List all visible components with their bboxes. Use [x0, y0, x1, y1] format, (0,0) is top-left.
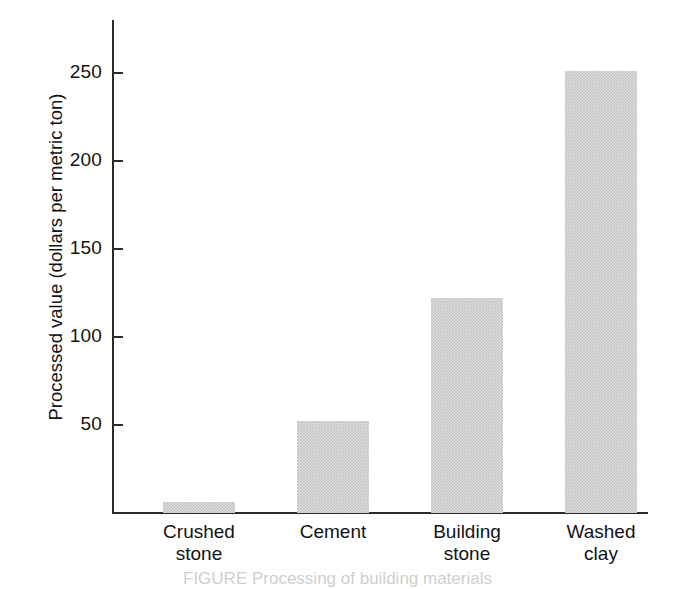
y-tick-label-250: 250 — [42, 61, 102, 83]
figure-caption: FIGURE Processing of building materials — [0, 569, 675, 589]
x-label-line1: Cement — [300, 521, 367, 542]
y-tick-label-200: 200 — [42, 149, 102, 171]
x-label-line2: clay — [541, 543, 661, 565]
bar-cement — [297, 421, 369, 513]
y-tick-label-50: 50 — [42, 413, 102, 435]
bar-washed-clay — [565, 71, 637, 513]
x-label-line1: Crushed — [163, 521, 235, 542]
bars-group — [112, 20, 648, 513]
bar-crushed-stone — [163, 502, 235, 513]
x-label-building-stone: Buildingstone — [407, 521, 527, 565]
bar-building-stone — [431, 298, 503, 513]
x-label-washed-clay: Washedclay — [541, 521, 661, 565]
x-label-cement: Cement — [273, 521, 393, 543]
x-label-line1: Washed — [567, 521, 636, 542]
x-label-line1: Building — [433, 521, 501, 542]
x-label-line2: stone — [407, 543, 527, 565]
x-label-line2: stone — [139, 543, 259, 565]
y-tick-label-150: 150 — [42, 237, 102, 259]
x-label-crushed-stone: Crushedstone — [139, 521, 259, 565]
y-tick-label-100: 100 — [42, 325, 102, 347]
